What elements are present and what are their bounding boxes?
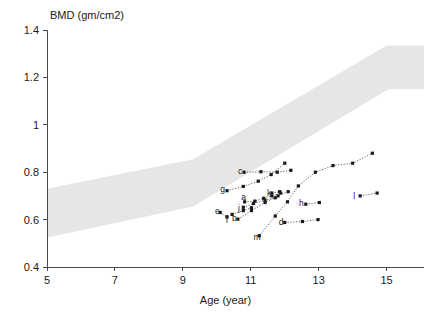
x-tick-label: 13 <box>313 274 325 286</box>
bmd-vs-age-chart: 0.40.60.811.21.4579111315BMD (gm/cm2)Age… <box>0 0 437 320</box>
chart-title: BMD (gm/cm2) <box>50 9 124 21</box>
x-axis-title: Age (year) <box>200 294 251 306</box>
data-point[interactable] <box>242 171 245 174</box>
reference-band <box>47 45 424 237</box>
data-point[interactable] <box>301 220 304 223</box>
data-point[interactable] <box>242 185 245 188</box>
data-point[interactable] <box>283 221 286 224</box>
series-label-a: a <box>241 192 246 202</box>
y-tick-label: 0.4 <box>24 261 39 273</box>
data-point[interactable] <box>351 162 354 165</box>
series-line-l <box>360 193 377 196</box>
data-point[interactable] <box>276 171 279 174</box>
data-point[interactable] <box>263 199 266 202</box>
series-label-l: l <box>353 191 355 201</box>
data-point[interactable] <box>376 191 379 194</box>
data-point[interactable] <box>287 190 290 193</box>
series-d: d <box>279 217 320 227</box>
data-point[interactable] <box>231 213 234 216</box>
x-tick-label: 7 <box>112 274 118 286</box>
y-tick-label: 1.4 <box>24 24 39 36</box>
series-h: h <box>299 198 321 208</box>
data-point[interactable] <box>331 164 334 167</box>
data-point[interactable] <box>316 218 319 221</box>
data-point[interactable] <box>289 169 292 172</box>
series-line-j <box>243 198 275 207</box>
y-tick-label: 0.6 <box>24 214 39 226</box>
x-tick-label: 9 <box>180 274 186 286</box>
data-point[interactable] <box>314 171 317 174</box>
data-point[interactable] <box>274 196 277 199</box>
data-point[interactable] <box>274 214 277 217</box>
series-label-d: d <box>279 217 284 227</box>
data-point[interactable] <box>250 209 253 212</box>
data-point[interactable] <box>250 206 253 209</box>
data-point[interactable] <box>270 173 273 176</box>
x-tick-label: 11 <box>245 274 256 286</box>
series-line-h <box>306 203 320 205</box>
data-point[interactable] <box>371 152 374 155</box>
data-point[interactable] <box>297 184 300 187</box>
data-point[interactable] <box>242 209 245 212</box>
y-tick-label: 1 <box>33 119 39 131</box>
series-label-e: e <box>215 206 220 216</box>
series-label-h: h <box>299 198 304 208</box>
series-label-g: g <box>220 184 225 194</box>
data-point[interactable] <box>359 194 362 197</box>
data-point[interactable] <box>283 162 286 165</box>
series-line-m <box>259 153 372 235</box>
data-point[interactable] <box>252 202 255 205</box>
series-label-k: k <box>267 188 272 198</box>
series-label-c: c <box>238 166 243 176</box>
chart-canvas: 0.40.60.811.21.4579111315BMD (gm/cm2)Age… <box>0 0 437 320</box>
y-tick-label: 0.8 <box>24 166 39 178</box>
series-label-j: j <box>237 203 240 213</box>
data-point[interactable] <box>225 189 228 192</box>
data-point[interactable] <box>286 200 289 203</box>
x-tick-label: 15 <box>381 274 393 286</box>
series-l: l <box>353 191 378 201</box>
data-point[interactable] <box>278 190 281 193</box>
data-point[interactable] <box>304 203 307 206</box>
data-point[interactable] <box>242 206 245 209</box>
data-point[interactable] <box>318 201 321 204</box>
data-point[interactable] <box>259 170 262 173</box>
series-label-m: m <box>254 232 261 242</box>
x-tick-label: 5 <box>44 274 50 286</box>
y-tick-label: 1.2 <box>24 71 39 83</box>
data-point[interactable] <box>257 180 260 183</box>
